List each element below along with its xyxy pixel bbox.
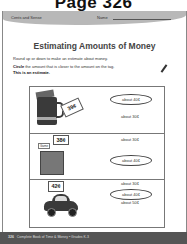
wheel-icon — [47, 208, 56, 217]
instruction-circle-word: Circle — [13, 64, 24, 69]
instruction-line-1: Round up or down to make an estimate abo… — [13, 56, 108, 61]
exercise-row-game: 38¢ Game about 30¢ about 40¢ — [30, 133, 164, 180]
series-title: Cents and Sense — [11, 15, 42, 20]
worksheet: Cents and Sense Name Estimating Amounts … — [2, 11, 187, 244]
footer-book-title: Complete Book of Time & Money • Grades K… — [17, 235, 89, 239]
footer-bar: 326 Complete Book of Time & Money • Grad… — [0, 232, 187, 244]
option-circled[interactable]: about 40¢ — [110, 155, 152, 166]
footer-text: 326 Complete Book of Time & Money • Grad… — [8, 235, 89, 239]
instruction-line-3: This is an estimate. — [13, 70, 50, 75]
exercise-grid: 39¢ about 40¢ about 30¢ 38¢ Game about 3… — [29, 86, 165, 228]
option[interactable]: about 30¢ — [110, 114, 150, 119]
instruction-line-2: the amount that is closer to the amount … — [24, 64, 114, 69]
option[interactable]: about 50¢ — [110, 200, 150, 205]
exercise-row-car: 42¢ about 30¢ about 40¢ about 50¢ — [30, 179, 164, 227]
option[interactable]: about 30¢ — [110, 137, 150, 142]
name-label: Name — [97, 15, 108, 20]
option-circled[interactable]: about 40¢ — [110, 189, 152, 200]
option-circled[interactable]: about 40¢ — [110, 94, 152, 105]
price-tag: 38¢ — [53, 135, 69, 145]
mug-icon — [37, 97, 57, 125]
instruction-block: Circle the amount that is closer to the … — [13, 64, 153, 76]
wheel-icon — [68, 208, 77, 217]
game-box-icon — [40, 151, 64, 175]
option[interactable]: about 30¢ — [110, 181, 150, 186]
mug-band — [37, 117, 57, 120]
pencil-icon — [161, 64, 168, 73]
name-field-line — [113, 19, 171, 20]
game-label: Game — [38, 143, 50, 149]
price-tag: 39¢ — [60, 97, 84, 117]
header-bar: Cents and Sense Name — [3, 11, 186, 25]
footer-page-number: 326 — [8, 235, 14, 239]
worksheet-title: Estimating Amounts of Money — [3, 41, 186, 51]
price-tag: 42¢ — [48, 181, 64, 192]
exercise-row-mug: 39¢ about 40¢ about 30¢ — [30, 87, 164, 134]
